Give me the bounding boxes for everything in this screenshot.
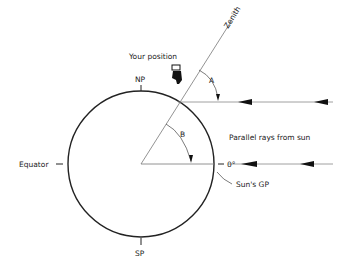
zenith-label: Zenith — [222, 4, 243, 30]
suns-gp-label: Sun's GP — [236, 180, 269, 189]
celestial-navigation-diagram: Zenith Your position NP SP Equator A B 0… — [0, 0, 353, 275]
upper-ray-arrow-2 — [314, 99, 328, 105]
lower-ray-arrow-1 — [241, 161, 257, 167]
angle-a-label: A — [209, 76, 215, 85]
equator-label: Equator — [19, 160, 49, 169]
south-pole-label: SP — [135, 249, 145, 258]
angle-b-label: B — [180, 130, 185, 139]
observer-figure-icon — [172, 65, 182, 84]
angle-a-arrow — [216, 94, 220, 101]
zero-degrees-label: 0° — [227, 160, 236, 169]
parallel-rays-label: Parallel rays from sun — [229, 133, 311, 142]
upper-ray-arrow-1 — [238, 99, 252, 105]
angle-b-arrow — [189, 155, 193, 163]
your-position-label: Your position — [128, 52, 177, 61]
angle-b-arc — [166, 124, 191, 161]
north-pole-label: NP — [135, 75, 146, 84]
lower-ray-arrow-2 — [300, 161, 314, 167]
suns-gp-pointer — [217, 172, 232, 184]
